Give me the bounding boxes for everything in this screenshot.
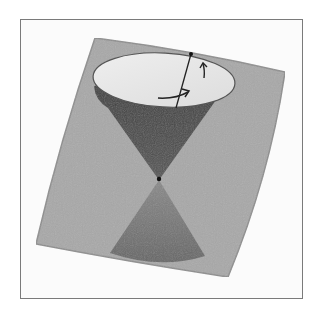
- light-cone-drawing: [0, 0, 324, 320]
- axis-top-point: [189, 52, 193, 56]
- apex-event-point: [157, 177, 161, 181]
